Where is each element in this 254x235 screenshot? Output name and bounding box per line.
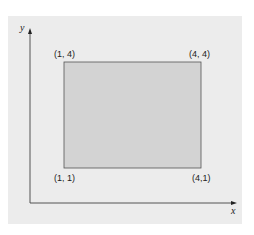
corner-label-top-left: (1, 4) xyxy=(54,49,75,59)
corner-label-top-right: (4, 4) xyxy=(189,49,210,59)
rectangle xyxy=(64,62,201,168)
y-axis-label: y xyxy=(20,22,24,33)
x-axis-label: x xyxy=(231,205,235,216)
corner-label-bottom-right: (4,1) xyxy=(192,173,211,183)
corner-label-bottom-left: (1, 1) xyxy=(54,173,75,183)
diagram-canvas xyxy=(0,0,254,235)
y-axis-arrow-icon xyxy=(28,28,32,34)
